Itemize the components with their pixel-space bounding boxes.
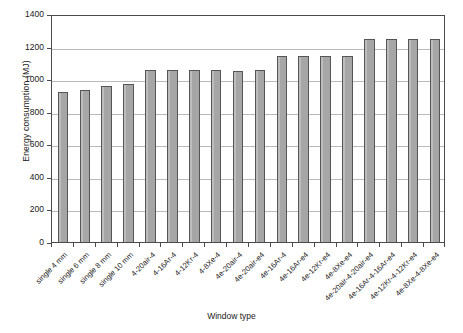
x-axis-title: Window type — [0, 311, 463, 321]
x-axis-tick-labels: single 4 mmsingle 6 mmsingle 8 mmsingle … — [0, 0, 463, 333]
bar-chart-figure: Energy consumption (MJ) 0200400600800100… — [0, 0, 463, 333]
